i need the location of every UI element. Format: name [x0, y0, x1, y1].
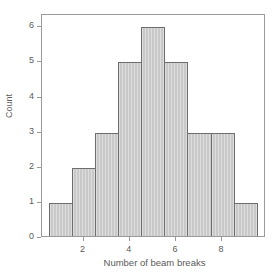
histogram-bar [49, 203, 73, 236]
y-tick-label: 3 [29, 125, 34, 138]
histogram-bar [72, 168, 96, 236]
x-tick-mark [221, 237, 222, 241]
y-axis: Count 0123456 [0, 0, 41, 275]
x-tick-label: 6 [165, 243, 185, 256]
y-axis-tick: 2 [0, 167, 41, 168]
x-tick-label: 2 [73, 243, 93, 256]
histogram-bar [164, 62, 188, 236]
y-tick-label: 5 [29, 54, 34, 67]
y-tick-label: 4 [29, 90, 34, 103]
y-tick-label: 2 [29, 160, 34, 173]
y-tick-label: 1 [29, 195, 34, 208]
histogram-bar [234, 203, 258, 236]
y-axis-title-label: Count [2, 104, 16, 118]
x-tick-mark [175, 237, 176, 241]
y-tick-label: 6 [29, 19, 34, 32]
y-axis-tick: 6 [0, 26, 41, 27]
x-tick-mark [83, 237, 84, 241]
x-axis-title: Number of beam breaks [0, 256, 279, 270]
histogram-figure: Count 0123456 2468 Number of beam breaks [0, 0, 279, 275]
histogram-bar [211, 133, 235, 236]
x-tick-label: 4 [119, 243, 139, 256]
plot-frame [41, 14, 265, 237]
x-axis-title-label: Number of beam breaks [104, 257, 206, 268]
histogram-bar [95, 133, 119, 236]
y-axis-tick: 4 [0, 97, 41, 98]
y-axis-tick: 1 [0, 202, 41, 203]
x-tick-label: 8 [211, 243, 231, 256]
plot-area [42, 15, 264, 236]
x-tick-mark [129, 237, 130, 241]
histogram-bar [141, 27, 165, 236]
histogram-bar [118, 62, 142, 236]
histogram-bar [187, 133, 211, 236]
y-axis-tick: 3 [0, 132, 41, 133]
y-axis-tick: 5 [0, 61, 41, 62]
